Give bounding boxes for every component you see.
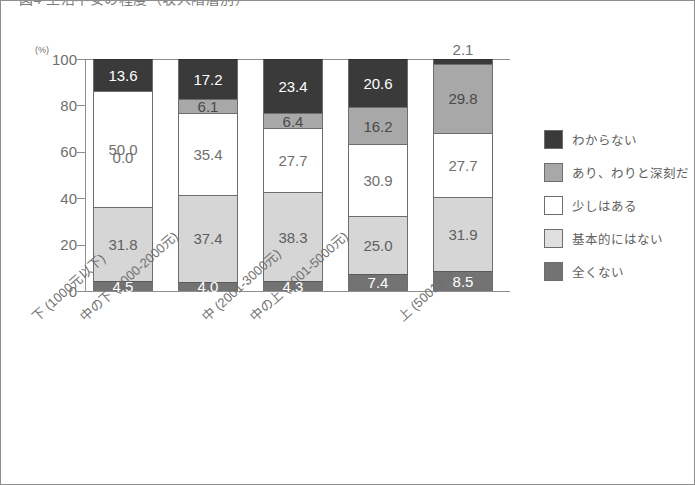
value-label-bar5-dont-know: 2.1 [453, 41, 474, 58]
legend-swatch-none-at-all [544, 262, 563, 281]
legend-swatch-serious [544, 163, 563, 182]
bar-group-5[interactable]: 8.5 31.9 27.7 29.8 2.1 [433, 59, 493, 291]
segment-dont-know[interactable]: 23.4 [263, 59, 323, 113]
y-tickmark-0 [77, 291, 85, 292]
segment-a-little[interactable]: 50.0 [93, 91, 153, 207]
bar-group-2[interactable]: 4.0 37.4 35.4 6.1 17.2 [178, 59, 238, 291]
segment-basically-none[interactable]: 25.0 [348, 216, 408, 274]
segment-basically-none[interactable]: 31.9 [433, 197, 493, 271]
segment-basically-none[interactable]: 37.4 [178, 195, 238, 282]
segment-none-at-all[interactable]: 7.4 [348, 274, 408, 291]
legend-item-dont-know[interactable]: わからない [544, 123, 694, 156]
figure-frame: 図4 生活不安の程度（収入階層別） (%) 100 80 60 40 20 0 … [0, 0, 695, 485]
y-tick-60: 60 [33, 144, 77, 159]
segment-a-little[interactable]: 30.9 [348, 144, 408, 216]
legend-item-basically-none[interactable]: 基本的にはない [544, 222, 694, 255]
legend-item-none-at-all[interactable]: 全くない [544, 255, 694, 288]
segment-a-little[interactable]: 27.7 [263, 128, 323, 192]
y-tick-40: 40 [33, 191, 77, 206]
legend-label-none-at-all: 全くない [572, 262, 624, 281]
segment-dont-know[interactable]: 2.1 [433, 59, 493, 64]
y-tickmark-80 [77, 105, 85, 106]
legend-label-basically-none: 基本的にはない [572, 229, 663, 248]
segment-serious[interactable]: 16.2 [348, 107, 408, 145]
segment-serious[interactable]: 6.4 [263, 113, 323, 128]
bar-group-4[interactable]: 7.4 25.0 30.9 16.2 20.6 [348, 59, 408, 291]
legend-item-a-little[interactable]: 少しはある [544, 189, 694, 222]
y-tickmark-60 [77, 152, 85, 153]
y-tickmark-20 [77, 245, 85, 246]
legend-swatch-a-little [544, 196, 563, 215]
segment-a-little[interactable]: 27.7 [433, 133, 493, 197]
segment-serious[interactable]: 6.1 [178, 99, 238, 113]
segment-dont-know[interactable]: 13.6 [93, 59, 153, 91]
chart-plot-area: (%) 100 80 60 40 20 0 4.5 31.8 50.0 0.0 … [1, 1, 695, 485]
legend-swatch-dont-know [544, 130, 563, 149]
segment-a-little[interactable]: 35.4 [178, 113, 238, 195]
legend-item-serious[interactable]: あり、わりと深刻だ [544, 156, 694, 189]
legend-label-dont-know: わからない [572, 130, 637, 149]
legend-swatch-basically-none [544, 229, 563, 248]
legend-label-a-little: 少しはある [572, 196, 637, 215]
y-tick-20: 20 [33, 237, 77, 252]
legend-label-serious: あり、わりと深刻だ [572, 163, 689, 182]
chart-legend: わからない あり、わりと深刻だ 少しはある 基本的にはない 全くない [544, 123, 694, 288]
segment-serious[interactable]: 29.8 [433, 64, 493, 133]
y-tickmark-40 [77, 198, 85, 199]
segment-dont-know[interactable]: 17.2 [178, 59, 238, 99]
segment-dont-know[interactable]: 20.6 [348, 59, 408, 107]
y-axis-tick-labels: 100 80 60 40 20 0 [1, 1, 77, 485]
y-tickmark-100 [77, 59, 85, 60]
y-tick-80: 80 [33, 98, 77, 113]
y-tick-100: 100 [33, 52, 77, 67]
